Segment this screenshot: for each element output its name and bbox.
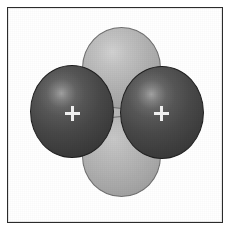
plus-vertical-bar: [160, 106, 163, 121]
plus-vertical-bar: [71, 106, 74, 121]
diagram-canvas: [0, 0, 234, 234]
figure-root: Orbital overlap diagram Two dark gray at…: [0, 0, 234, 234]
left-nucleus-marker-icon: [65, 106, 80, 121]
right-nucleus-marker-icon: [154, 106, 169, 121]
